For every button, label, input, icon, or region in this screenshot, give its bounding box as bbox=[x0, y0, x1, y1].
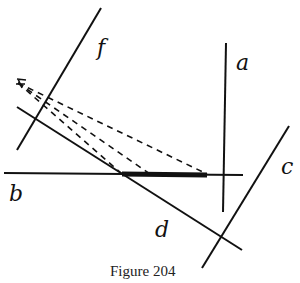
figure-204-diagram: f a b c d Figure 204 bbox=[0, 0, 300, 283]
label-c: c bbox=[281, 154, 293, 179]
line-d bbox=[17, 107, 242, 250]
line-a bbox=[223, 43, 226, 212]
eye-icon bbox=[16, 79, 26, 88]
line-f bbox=[17, 8, 101, 150]
sight-lines bbox=[18, 83, 207, 174]
line-c bbox=[202, 126, 289, 268]
projected-segment bbox=[122, 174, 207, 175]
label-b: b bbox=[9, 181, 23, 206]
label-d: d bbox=[155, 217, 169, 242]
label-a: a bbox=[236, 50, 249, 75]
label-f: f bbox=[95, 35, 109, 60]
figure-caption: Figure 204 bbox=[110, 263, 176, 279]
